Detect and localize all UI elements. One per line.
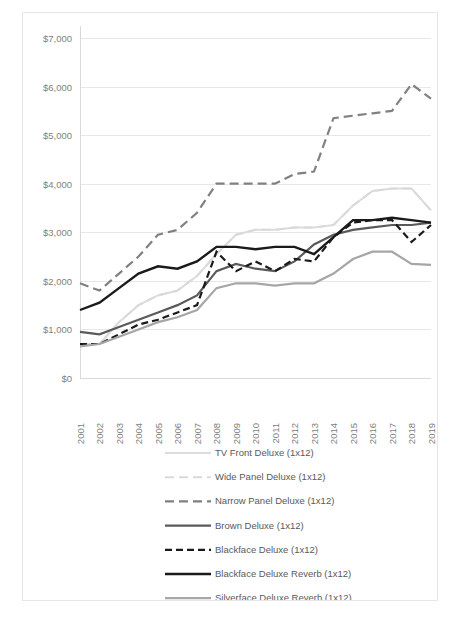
- chart-container: $7,000$6,000$5,000$4,000$3,000$2,000$1,0…: [22, 12, 438, 601]
- series-line-wide-panel-deluxe-1x12: [80, 189, 431, 344]
- series-line-blackface-deluxe-1x12: [80, 220, 431, 344]
- x-axis-tick-label: 2011: [270, 423, 281, 443]
- y-gridlines: $7,000$6,000$5,000$4,000$3,000$2,000$1,0…: [43, 33, 431, 384]
- series-line-narrow-panel-deluxe-1x12: [80, 84, 431, 290]
- x-axis-tick-label: 2010: [250, 423, 261, 444]
- y-axis-tick-label: $0: [61, 373, 72, 384]
- x-axis-tick-label: 2013: [309, 423, 320, 444]
- x-axis-tick-label: 2008: [211, 423, 222, 444]
- series-line-blackface-deluxe-reverb-1x12: [80, 218, 431, 310]
- legend-item-label: Wide Panel Deluxe (1x12): [215, 471, 325, 482]
- legend-item-label: Blackface Deluxe Reverb (1x12): [215, 568, 351, 579]
- chart-plot-area: $7,000$6,000$5,000$4,000$3,000$2,000$1,0…: [23, 13, 437, 600]
- x-axis-tick-label: 2012: [289, 423, 300, 444]
- y-axis-tick-label: $1,000: [43, 324, 72, 335]
- legend-item-label: Brown Deluxe (1x12): [215, 520, 304, 531]
- legend-item[interactable]: Brown Deluxe (1x12): [165, 520, 304, 531]
- data-series-group: [80, 84, 431, 346]
- chart-legend: TV Front Deluxe (1x12)Wide Panel Deluxe …: [165, 447, 352, 600]
- y-axis-tick-label: $3,000: [43, 227, 72, 238]
- x-axis-tick-label: 2001: [75, 423, 86, 444]
- legend-item[interactable]: Blackface Deluxe Reverb (1x12): [165, 568, 351, 579]
- x-axis-tick-label: 2017: [387, 423, 398, 444]
- x-axis-tick-label: 2015: [348, 423, 359, 444]
- legend-item[interactable]: Narrow Panel Deluxe (1x12): [165, 495, 334, 506]
- x-axis-tick-label: 2016: [367, 423, 378, 444]
- series-line-tv-front-deluxe-1x12: [80, 189, 431, 344]
- line-chart: $7,000$6,000$5,000$4,000$3,000$2,000$1,0…: [23, 13, 437, 600]
- legend-item-label: Blackface Deluxe (1x12): [215, 544, 318, 555]
- legend-item[interactable]: Wide Panel Deluxe (1x12): [165, 471, 325, 482]
- y-axis-tick-label: $2,000: [43, 276, 72, 287]
- x-axis-tick-label: 2002: [94, 423, 105, 444]
- y-axis-tick-label: $5,000: [43, 130, 72, 141]
- legend-item-label: Silverface Deluxe Reverb (1x12): [215, 592, 352, 600]
- legend-item[interactable]: Blackface Deluxe (1x12): [165, 544, 318, 555]
- x-axis-tick-label: 2019: [426, 423, 437, 444]
- y-axis-tick-label: $7,000: [43, 33, 72, 44]
- series-line-silverface-deluxe-reverb-1x12: [80, 252, 431, 347]
- x-axis-tick-label: 2004: [133, 423, 144, 444]
- x-axis-tick-label: 2006: [172, 423, 183, 444]
- x-axis-tick-label: 2007: [192, 423, 203, 444]
- y-axis-tick-label: $6,000: [43, 82, 72, 93]
- legend-item[interactable]: TV Front Deluxe (1x12): [165, 447, 314, 458]
- x-axis-labels: 2001200220032004200520062007200820092010…: [75, 423, 437, 444]
- x-axis-tick-label: 2003: [114, 423, 125, 444]
- x-axis-tick-label: 2005: [153, 423, 164, 444]
- x-axis-tick-label: 2018: [406, 423, 417, 444]
- legend-item-label: Narrow Panel Deluxe (1x12): [215, 495, 334, 506]
- y-axis-tick-label: $4,000: [43, 179, 72, 190]
- legend-item-label: TV Front Deluxe (1x12): [215, 447, 314, 458]
- x-axis-tick-label: 2014: [328, 423, 339, 444]
- x-axis-tick-label: 2009: [231, 423, 242, 444]
- legend-item[interactable]: Silverface Deluxe Reverb (1x12): [165, 592, 352, 600]
